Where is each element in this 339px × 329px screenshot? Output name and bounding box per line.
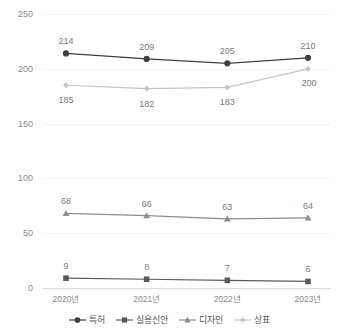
data-label-실용신안-3: 6: [305, 264, 310, 274]
legend-label-상표: 상표: [254, 313, 270, 326]
line-chart: 050100150200250 214209205210987668666364…: [0, 0, 339, 329]
legend-marker-square-icon: [116, 315, 133, 325]
data-label-디자인-0: 68: [61, 196, 71, 206]
legend-label-특허: 특허: [89, 313, 105, 326]
data-label-특허-0: 214: [58, 36, 73, 46]
legend-label-디자인: 디자인: [199, 313, 223, 326]
y-tick-label-100: 100: [18, 173, 33, 183]
x-tick-label-0: 2020년: [53, 292, 80, 304]
data-label-상표-3: 200: [301, 78, 316, 88]
data-label-디자인-2: 63: [222, 202, 232, 212]
series-특허: [63, 50, 311, 66]
x-tick-label-2: 2022년: [214, 292, 241, 304]
data-point-특허-2: [224, 60, 230, 66]
data-point-실용신안-0: [63, 275, 69, 281]
legend-label-실용신안: 실용신안: [136, 313, 168, 326]
data-label-상표-1: 182: [139, 99, 154, 109]
gridline-0: [43, 288, 331, 289]
legend-marker-diamond-icon: [234, 315, 251, 325]
plot-area: 214209205210987668666364185182183200: [43, 14, 331, 288]
data-label-실용신안-0: 9: [63, 261, 68, 271]
legend-marker-circle-icon: [69, 315, 86, 325]
data-label-특허-1: 209: [139, 42, 154, 52]
legend-item-디자인[interactable]: 디자인: [179, 313, 223, 326]
gridline-50: [43, 233, 331, 234]
data-point-상표-1: [144, 86, 150, 92]
data-label-실용신안-1: 8: [144, 262, 149, 272]
y-tick-label-50: 50: [23, 228, 33, 238]
data-point-특허-1: [144, 56, 150, 62]
y-tick-label-250: 250: [18, 9, 33, 19]
data-label-상표-2: 183: [220, 97, 235, 107]
legend-item-특허[interactable]: 특허: [69, 313, 105, 326]
data-point-실용신안-2: [225, 278, 231, 284]
data-label-상표-0: 185: [58, 95, 73, 105]
data-label-디자인-1: 66: [142, 199, 152, 209]
y-tick-label-200: 200: [18, 64, 33, 74]
legend-item-상표[interactable]: 상표: [234, 313, 270, 326]
data-point-상표-2: [224, 85, 230, 91]
y-tick-label-150: 150: [18, 119, 33, 129]
chart-legend: 특허실용신안디자인상표: [0, 313, 339, 326]
legend-item-실용신안[interactable]: 실용신안: [116, 313, 168, 326]
data-point-실용신안-3: [305, 279, 311, 285]
data-point-특허-3: [305, 55, 311, 61]
data-point-실용신안-1: [144, 276, 150, 282]
x-axis-tick-labels: 2020년2021년2022년2023년: [43, 292, 331, 306]
legend-marker-triangle-icon: [179, 315, 196, 325]
data-label-특허-2: 205: [220, 46, 235, 56]
x-tick-label-3: 2023년: [295, 292, 322, 304]
series-line-특허: [66, 53, 308, 63]
series-line-상표: [66, 69, 308, 89]
data-label-특허-3: 210: [300, 41, 315, 51]
data-label-실용신안-2: 7: [225, 263, 230, 273]
data-label-디자인-3: 64: [303, 201, 313, 211]
series-상표: [63, 66, 311, 92]
y-tick-label-0: 0: [28, 283, 33, 293]
gridline-100: [43, 178, 331, 179]
data-point-특허-0: [63, 50, 69, 56]
y-axis-tick-labels: 050100150200250: [0, 14, 39, 288]
series-layer: [43, 14, 339, 164]
x-tick-label-1: 2021년: [133, 292, 160, 304]
data-point-상표-0: [63, 82, 69, 88]
data-point-상표-3: [305, 66, 311, 72]
